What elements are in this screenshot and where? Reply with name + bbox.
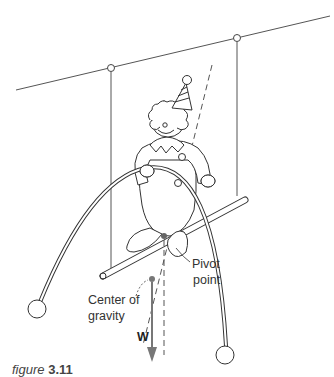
right-pole-weight [216,346,234,364]
figure-caption: figure 3.11 [12,362,73,377]
weight-arrow-head [147,347,157,362]
cog-label-line2: gravity [88,309,125,324]
caption-prefix: figure [12,362,45,377]
caption-number: 3.11 [48,362,73,377]
left-pole-weight [28,300,46,318]
pivot-label-line1: Pivot [192,257,220,272]
right-pulley [234,35,241,42]
high-wire [16,16,330,90]
cog-label-line1: Center of [88,293,139,308]
weight-label: W [137,330,149,345]
clown-figure [127,76,215,257]
pivot-point-dot [161,233,167,239]
balance-pole-left [40,168,145,302]
left-pulley [108,65,115,72]
pivot-label-line2: point [193,273,220,288]
center-of-gravity-dot [149,276,155,282]
